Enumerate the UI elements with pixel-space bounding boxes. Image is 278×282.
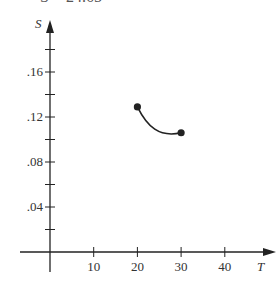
y-tick-label: .08 (27, 154, 43, 169)
x-axis-label: T (257, 259, 265, 274)
y-axis-label: S (35, 16, 42, 31)
x-tick-label: 20 (131, 259, 144, 274)
data-point (178, 129, 185, 136)
y-tick-label: .16 (27, 64, 44, 79)
x-tick-label: 40 (218, 259, 231, 274)
y-axis-arrow-icon (46, 20, 54, 33)
data-point (134, 103, 141, 110)
x-axis-arrow-icon (263, 248, 276, 256)
x-tick-label: 10 (87, 259, 100, 274)
x-tick-label: 30 (175, 259, 188, 274)
y-tick-label: .04 (27, 199, 44, 214)
y-tick-label: .12 (27, 109, 43, 124)
plot-area: 10203040T.04.08.12.16S (0, 0, 278, 282)
chart: S = 24.65 10203040T.04.08.12.16S (0, 0, 278, 282)
series-curve (137, 107, 181, 134)
